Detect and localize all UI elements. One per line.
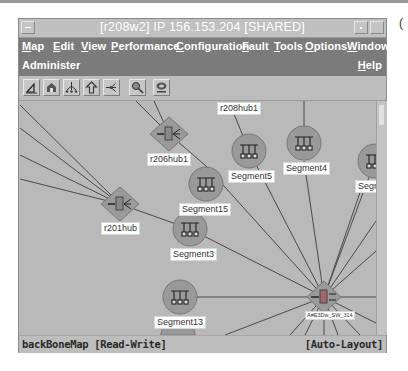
background-window-edge: (	[399, 16, 403, 30]
menu-performance[interactable]: Performance	[111, 40, 179, 52]
menu-tools-rest: ools	[280, 40, 303, 52]
magnifier-icon	[131, 81, 144, 94]
window-title: [r208w2] IP 156.153.204 [SHARED]	[19, 20, 386, 34]
status-bar: backBoneMap [Read-Write] [Auto-Layout]	[19, 335, 386, 353]
node-label-r206hub1[interactable]: r206hub1	[147, 153, 191, 166]
toolbar-button-up[interactable]	[83, 79, 100, 96]
map-canvas[interactable]: r208hub1 r206hub1 r201hub Segment5 Segme…	[20, 101, 376, 335]
menu-configuration-rest: onfiguration	[184, 40, 249, 52]
toolbar-button-home[interactable]	[43, 79, 60, 96]
hub-r201hub-icon	[101, 187, 139, 221]
network-map-window: [r208w2] IP 156.153.204 [SHARED] Map Edi…	[18, 18, 387, 353]
menu-fault-mnemonic: F	[242, 40, 249, 52]
toolbar-button-network-tree[interactable]	[63, 79, 80, 96]
menu-bar: Map Edit View Performance Configuration …	[19, 38, 386, 76]
home-icon	[45, 81, 58, 94]
toolbar	[19, 76, 386, 101]
status-layout-mode: [Auto-Layout]	[305, 338, 383, 350]
switch-icon	[307, 281, 341, 313]
menu-view[interactable]: View	[81, 40, 106, 52]
scrollbar-thumb[interactable]	[379, 105, 384, 125]
menu-options-rest: ptions	[314, 40, 348, 52]
toolbar-button-find[interactable]	[129, 79, 146, 96]
node-label-switch[interactable]: A#E3Dw_SW_314	[305, 311, 355, 320]
toolbar-button-ripple[interactable]	[153, 79, 170, 96]
menu-view-rest: iew	[88, 40, 106, 52]
title-bar[interactable]: [r208w2] IP 156.153.204 [SHARED]	[19, 19, 386, 38]
menu-fault[interactable]: Fault	[242, 40, 269, 52]
network-connect-icon	[105, 81, 118, 94]
toolbar-button-network-connect[interactable]	[103, 79, 120, 96]
menu-map-mnemonic: M	[22, 40, 31, 52]
toolbar-button-triangle[interactable]	[23, 79, 40, 96]
map-links	[20, 101, 376, 335]
status-map-name: backBoneMap [Read-Write]	[22, 338, 167, 350]
menu-tools[interactable]: Tools	[274, 40, 303, 52]
node-label-segment3[interactable]: Segment3	[170, 248, 217, 261]
menu-options-mnemonic: O	[305, 40, 314, 52]
menu-window-mnemonic: W	[347, 40, 357, 52]
network-tree-icon	[65, 81, 78, 94]
menu-window[interactable]: Window	[347, 40, 390, 52]
menu-help-mnemonic: H	[358, 59, 366, 71]
menu-performance-rest: erformance	[118, 40, 179, 52]
node-label-r201hub[interactable]: r201hub	[101, 222, 140, 235]
vertical-scrollbar[interactable]	[376, 101, 387, 335]
background-edge	[0, 0, 408, 3]
menu-help[interactable]: Help	[358, 59, 382, 71]
menu-configuration[interactable]: Configuration	[176, 40, 249, 52]
node-label-segment5[interactable]: Segment5	[228, 170, 275, 183]
menu-help-rest: elp	[366, 59, 382, 71]
maximize-button[interactable]	[370, 21, 384, 34]
ripple-icon	[155, 81, 168, 94]
menu-fault-rest: ault	[249, 40, 269, 52]
menu-map[interactable]: Map	[22, 40, 44, 52]
menu-window-rest: indow	[357, 40, 389, 52]
node-label-r208hub1[interactable]: r208hub1	[217, 102, 261, 115]
menu-options[interactable]: Options	[305, 40, 347, 52]
minimize-button[interactable]	[354, 21, 368, 34]
triangle-ruler-icon	[25, 81, 38, 94]
menu-administer[interactable]: Administer	[22, 59, 80, 71]
menu-edit-rest: dit	[60, 40, 74, 52]
node-label-segment15[interactable]: Segment15	[179, 203, 231, 216]
up-arrow-icon	[85, 81, 98, 94]
menu-edit[interactable]: Edit	[53, 40, 74, 52]
menu-configuration-mnemonic: C	[176, 40, 184, 52]
node-label-segment13[interactable]: Segment13	[154, 316, 206, 329]
menu-map-rest: ap	[31, 40, 44, 52]
node-label-segment4[interactable]: Segment4	[283, 162, 330, 175]
node-label-segment-right[interactable]: Segme	[355, 180, 376, 193]
